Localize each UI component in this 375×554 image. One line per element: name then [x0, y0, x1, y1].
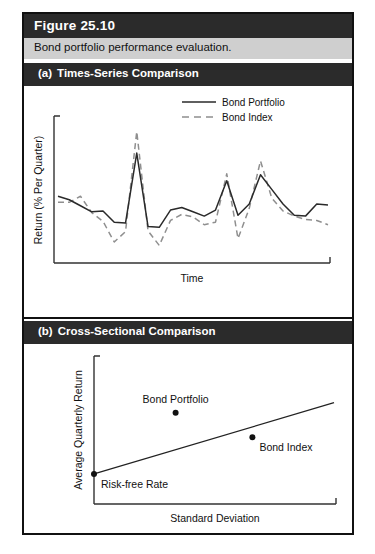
figure-number-label: Figure 25.10 — [34, 18, 115, 33]
panel-b-body: Bond Portfolio Bond Index Risk-free Rate… — [24, 344, 352, 533]
figure-caption-bar: Bond portfolio performance evaluation. — [24, 38, 352, 59]
panel-b-header-inner: (b)Cross-Sectional Comparison — [38, 325, 216, 337]
screenshot-page: Figure 25.10 Bond portfolio performance … — [0, 0, 375, 554]
chart-a-legend: Bond Portfolio Bond Index — [182, 97, 285, 123]
figure-frame: Figure 25.10 Bond portfolio performance … — [22, 12, 354, 535]
cross-sectional-chart: Bond Portfolio Bond Index Risk-free Rate… — [24, 344, 352, 533]
chart-a-x-axis — [54, 257, 330, 263]
panel-a-header-inner: (a)Times-Series Comparison — [38, 67, 199, 79]
panel-a-title: Times-Series Comparison — [57, 67, 199, 79]
data-label-bond-portfolio: Bond Portfolio — [143, 393, 209, 405]
panel-a-header: (a)Times-Series Comparison — [24, 63, 352, 86]
security-market-line — [94, 403, 334, 474]
data-label-bond-index: Bond Index — [259, 441, 313, 453]
figure-number-bar: Figure 25.10 — [24, 14, 352, 38]
time-series-chart: Bond Portfolio Bond Index Return (% Per … — [24, 86, 352, 321]
panel-divider — [24, 317, 352, 319]
data-point-bond-portfolio — [173, 410, 179, 416]
legend-label-bond-index: Bond Index — [222, 112, 273, 123]
panel-b-title: Cross-Sectional Comparison — [58, 325, 216, 337]
series-bond-portfolio-line — [58, 153, 328, 227]
chart-b-y-axis — [94, 356, 100, 504]
figure-caption-text: Bond portfolio performance evaluation. — [34, 41, 232, 53]
legend-label-bond-portfolio: Bond Portfolio — [222, 97, 285, 108]
panel-b-letter: (b) — [38, 325, 53, 337]
chart-b-x-axis-label: Standard Deviation — [170, 512, 259, 524]
chart-a-x-axis-label: Time — [181, 272, 204, 284]
data-point-bond-index — [249, 434, 255, 440]
chart-b-y-axis-label: Average Quarterly Return — [72, 370, 84, 490]
panel-a-body: Bond Portfolio Bond Index Return (% Per … — [24, 86, 352, 321]
chart-a-y-axis — [54, 116, 60, 263]
data-label-risk-free-rate: Risk-free Rate — [101, 478, 168, 490]
panel-a-letter: (a) — [38, 67, 52, 79]
data-point-risk-free-rate — [91, 471, 97, 477]
chart-a-y-axis-label: Return (% Per Quarter) — [32, 136, 44, 245]
panel-b-header: (b)Cross-Sectional Comparison — [24, 321, 352, 344]
chart-b-x-axis — [94, 498, 336, 504]
series-bond-index-line — [58, 132, 328, 246]
